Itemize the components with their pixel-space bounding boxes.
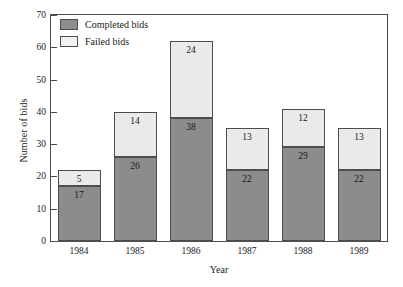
bar-segment-failed: 13: [338, 128, 381, 170]
bar-value-label: 5: [59, 175, 100, 185]
stacked-bar-chart: Number of bids 010203040506070 175261438…: [0, 0, 403, 287]
bar-segment-completed: 22: [338, 170, 381, 241]
bar-segment-completed: 29: [282, 147, 325, 241]
bar-value-label: 24: [171, 46, 212, 56]
bar-value-label: 12: [283, 114, 324, 124]
y-tick-label: 70: [37, 11, 47, 21]
legend-item: Completed bids: [60, 16, 148, 33]
y-tick-label: 0: [41, 237, 46, 247]
bar-value-label: 22: [339, 175, 380, 185]
x-tick-label: 1987: [217, 247, 277, 257]
bar-segment-failed: 24: [170, 41, 213, 118]
bar-value-label: 26: [115, 162, 156, 172]
bar-group: 3824: [170, 15, 213, 241]
y-tick-label: 10: [37, 205, 47, 215]
bar-value-label: 38: [171, 123, 212, 133]
bar-value-label: 14: [115, 117, 156, 127]
bar-value-label: 29: [283, 152, 324, 162]
chart-legend: Completed bidsFailed bids: [60, 16, 148, 50]
bar-group: 2213: [226, 15, 269, 241]
bar-value-label: 17: [59, 191, 100, 201]
y-tick-label: 50: [37, 76, 47, 86]
x-tick-label: 1985: [105, 247, 165, 257]
bar-segment-completed: 22: [226, 170, 269, 241]
y-tick: 0: [51, 241, 57, 242]
legend-label: Failed bids: [85, 37, 129, 47]
y-tick-label: 20: [37, 173, 47, 183]
x-tick-label: 1986: [161, 247, 221, 257]
legend-label: Completed bids: [85, 20, 148, 30]
y-tick-label: 60: [37, 44, 47, 54]
bar-segment-failed: 5: [58, 170, 101, 186]
bar-segment-completed: 26: [114, 157, 157, 241]
x-tick-label: 1989: [329, 247, 389, 257]
dark-gray-swatch: [60, 19, 78, 30]
bar-value-label: 13: [339, 133, 380, 143]
bar-group: 2213: [338, 15, 381, 241]
bar-segment-failed: 13: [226, 128, 269, 170]
y-tick-label: 40: [37, 108, 47, 118]
y-axis-title: Number of bids: [18, 56, 29, 206]
x-axis-title: Year: [50, 264, 388, 275]
x-tick-label: 1988: [273, 247, 333, 257]
legend-item: Failed bids: [60, 33, 148, 50]
bar-group: 2912: [282, 15, 325, 241]
light-gray-swatch: [60, 36, 78, 47]
bar-value-label: 22: [227, 175, 268, 185]
bar-segment-failed: 14: [114, 112, 157, 157]
bar-segment-failed: 12: [282, 109, 325, 148]
bar-segment-completed: 38: [170, 118, 213, 241]
x-tick-label: 1984: [49, 247, 109, 257]
bar-value-label: 13: [227, 133, 268, 143]
y-tick-label: 30: [37, 140, 47, 150]
bar-segment-completed: 17: [58, 186, 101, 241]
